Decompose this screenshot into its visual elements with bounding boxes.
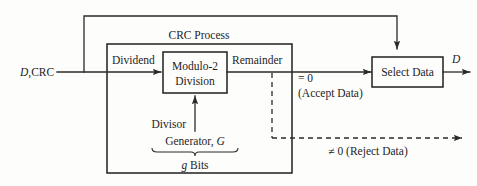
input-label: D,CRC bbox=[19, 66, 55, 79]
select-data-label: Select Data bbox=[381, 66, 434, 78]
crc-process-title: CRC Process bbox=[168, 29, 230, 41]
input-label-rest: ,CRC bbox=[28, 66, 54, 79]
reject-data-label: ≠ 0 (Reject Data) bbox=[328, 145, 408, 158]
division-box-line1: Modulo-2 bbox=[172, 60, 218, 72]
divisor-label: Divisor bbox=[152, 118, 187, 130]
crc-process-diagram: D,CRC CRC Process Dividend Modulo-2 Divi… bbox=[0, 0, 477, 186]
accept-data-label: (Accept Data) bbox=[298, 87, 363, 100]
generator-label: Generator, G bbox=[165, 135, 225, 148]
generator-symbol: G bbox=[216, 135, 225, 147]
accept-condition-label: = 0 bbox=[298, 72, 313, 84]
gbits-label: g Bits bbox=[181, 159, 209, 172]
output-label: D bbox=[451, 53, 461, 65]
dividend-label: Dividend bbox=[112, 54, 155, 66]
generator-label-text: Generator, bbox=[165, 135, 216, 148]
remainder-label: Remainder bbox=[232, 54, 283, 66]
division-box-line2: Division bbox=[175, 75, 215, 87]
gbits-text: Bits bbox=[187, 159, 209, 171]
diagram-canvas: D,CRC CRC Process Dividend Modulo-2 Divi… bbox=[0, 0, 477, 186]
